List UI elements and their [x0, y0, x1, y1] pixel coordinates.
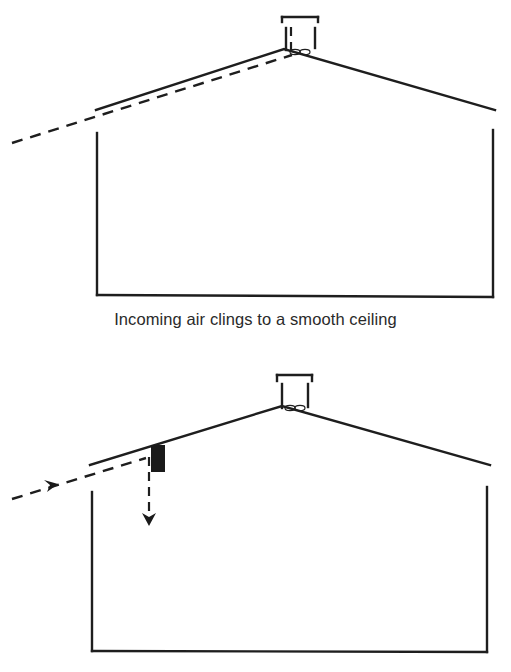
downward-arrow-icon [142, 513, 156, 526]
roof-line [90, 406, 490, 465]
roof-line [96, 49, 495, 110]
incoming-air-path [12, 458, 146, 499]
ridge-vent [282, 17, 318, 50]
building-baffled-ceiling [12, 375, 490, 652]
incoming-air-path [12, 55, 292, 143]
floor [97, 295, 493, 297]
building-smooth-ceiling [12, 17, 495, 297]
caption-smooth-ceiling: Incoming air clings to a smooth ceiling [0, 310, 511, 329]
ceiling-baffle [151, 445, 165, 472]
ridge-vent [277, 375, 312, 408]
floor [92, 651, 487, 652]
ventilation-diagram [0, 0, 511, 672]
